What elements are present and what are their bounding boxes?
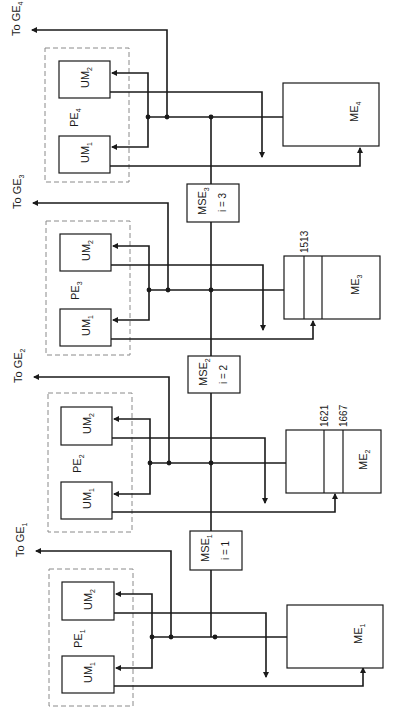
me-box (283, 83, 379, 146)
mse-1: MSE1 i = 1 (190, 531, 242, 570)
me-address-label: 1513 (299, 230, 310, 253)
junction-dot (213, 635, 218, 640)
mse-box (188, 356, 240, 393)
section-4: To GE4 PE4 UM2 UM1 ME4 (10, 1, 379, 182)
um1-input-line (116, 637, 152, 668)
um2-input-line (112, 73, 148, 117)
um1-input-line (113, 290, 149, 320)
pe-label: PE2 (71, 454, 85, 473)
junction-dot (165, 115, 170, 120)
ge-label: To GE2 (12, 348, 26, 383)
ge-label: To GE1 (14, 522, 28, 557)
mse-box (187, 184, 239, 222)
ge-label: To GE4 (10, 1, 24, 36)
um1-output-line (111, 321, 313, 339)
junction-dot (166, 288, 171, 293)
junction-dot (209, 115, 214, 120)
um2-input-line (113, 246, 149, 290)
pe-label: PE4 (68, 108, 82, 127)
junction-dot (169, 635, 174, 640)
mse-box (190, 531, 242, 570)
mse-2: MSE2 i = 2 (188, 356, 240, 393)
ge-label: To GE3 (11, 174, 25, 209)
mse-param: i = 2 (218, 364, 229, 384)
um1-output-line (114, 668, 363, 686)
mse-param: i = 1 (220, 540, 231, 560)
mse-param: i = 3 (217, 192, 228, 212)
junction-dot (150, 635, 155, 640)
junction-dot (147, 288, 152, 293)
junction-dot (209, 461, 214, 466)
me-box (284, 256, 380, 319)
pe-label: PE1 (72, 629, 86, 648)
mse-label: MSE1 (199, 534, 213, 562)
me-address-label: 1621 (319, 404, 330, 427)
memory-switch-network-diagram: To GE4 PE4 UM2 UM1 ME4 MSE3 i = 3 To GE3 (0, 0, 397, 715)
junction-dot (167, 461, 172, 466)
um1-input-line (112, 117, 148, 147)
junction-dot (148, 461, 153, 466)
me-address-label: 1667 (338, 404, 349, 427)
pe-label: PE3 (69, 281, 83, 300)
junction-dot (209, 288, 214, 293)
um1-output-line (110, 148, 360, 166)
me-box (287, 605, 383, 668)
mse-label: MSE2 (197, 358, 211, 386)
um2-input-line (116, 594, 152, 637)
junction-dot (146, 115, 151, 120)
um1-output-line (112, 494, 335, 512)
mse-3: MSE3 i = 3 (187, 184, 239, 222)
mse-label: MSE3 (196, 187, 210, 215)
